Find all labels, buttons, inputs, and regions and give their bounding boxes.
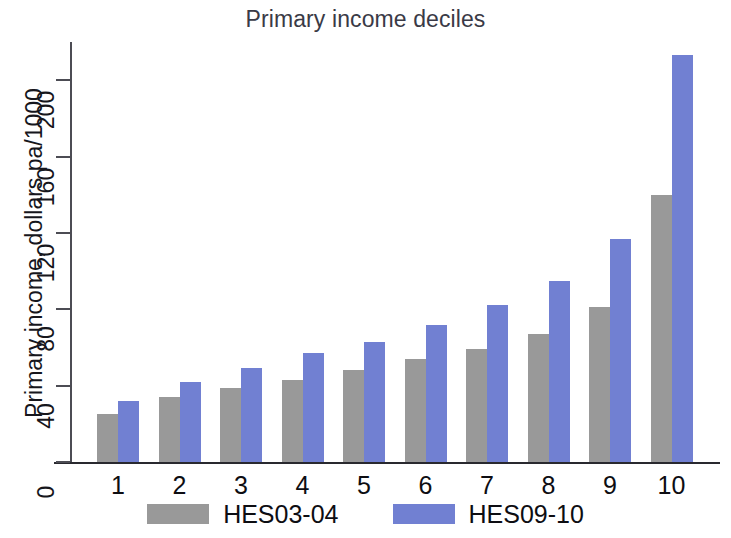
y-tick-mark: [56, 385, 70, 387]
bar: [466, 349, 487, 462]
y-tick-mark: [56, 79, 70, 81]
x-tick-label: 10: [642, 470, 702, 500]
y-tick-label: 120: [34, 233, 58, 293]
bar: [651, 195, 672, 462]
legend-swatch: [393, 504, 455, 524]
x-tick-label: 4: [273, 470, 333, 500]
y-tick-label: 80: [34, 309, 58, 369]
legend-item[interactable]: HES09-10: [393, 500, 584, 528]
x-tick-label: 5: [334, 470, 394, 500]
bar: [97, 414, 118, 462]
bar: [343, 370, 364, 462]
bar: [303, 353, 324, 462]
legend-item[interactable]: HES03-04: [147, 500, 338, 528]
plot-area: 04080120160200 12345678910: [70, 42, 720, 462]
bar: [159, 397, 180, 462]
y-tick-mark: [56, 308, 70, 310]
x-tick-label: 6: [396, 470, 456, 500]
x-tick-label: 1: [88, 470, 148, 500]
bar: [220, 388, 241, 462]
bar: [549, 281, 570, 462]
bar: [364, 342, 385, 462]
bar: [405, 359, 426, 462]
x-tick-label: 3: [211, 470, 271, 500]
chart-legend: HES03-04HES09-10: [0, 500, 731, 528]
y-tick-label: 200: [34, 80, 58, 140]
bar: [610, 239, 631, 462]
x-axis-line: [54, 462, 720, 464]
chart-title: Primary income deciles: [0, 5, 731, 33]
bar: [180, 382, 201, 462]
bar: [426, 325, 447, 462]
bar-chart-figure: Primary income deciles Primary income, d…: [0, 0, 731, 538]
y-tick-label: 40: [34, 386, 58, 446]
x-tick-label: 2: [150, 470, 210, 500]
bar: [589, 307, 610, 462]
legend-label: HES03-04: [223, 500, 338, 528]
legend-swatch: [147, 504, 209, 524]
bar: [241, 368, 262, 462]
x-tick-label: 7: [457, 470, 517, 500]
bar: [528, 334, 549, 462]
y-tick-mark: [56, 156, 70, 158]
x-tick-label: 9: [580, 470, 640, 500]
bar: [282, 380, 303, 462]
bar: [487, 305, 508, 462]
y-tick-mark: [56, 232, 70, 234]
x-tick-label: 8: [519, 470, 579, 500]
y-tick-label: 160: [34, 157, 58, 217]
bar: [672, 55, 693, 462]
bar: [118, 401, 139, 462]
legend-label: HES09-10: [469, 500, 584, 528]
y-tick-mark: [56, 461, 70, 463]
bars-layer: [70, 42, 720, 462]
